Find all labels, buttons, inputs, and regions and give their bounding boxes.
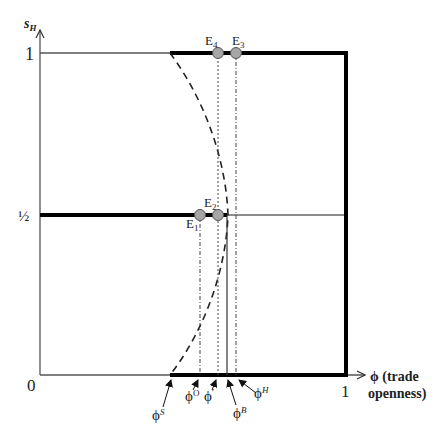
y-tick-1: 1 (25, 44, 34, 64)
equilibrium-point-E1 (195, 210, 206, 221)
y-tick-half: ½ (18, 208, 29, 224)
label-phi-prime: ϕ′ (204, 387, 214, 404)
phi-S-arrow (163, 380, 171, 407)
label-E2: E2 (204, 195, 216, 212)
bifurcation-diagram: E1 E2 E4 E3 sH 1 ½ 0 1 ϕ (trade openness… (0, 0, 441, 431)
y-axis-label: sH (23, 16, 37, 33)
x-axis-label-line2: openness) (368, 386, 427, 402)
x-tick-1: 1 (341, 382, 350, 401)
label-E3: E3 (232, 33, 245, 50)
x-axis-label-line1: ϕ (trade (370, 369, 419, 385)
label-phi-H: ϕH (254, 385, 269, 401)
origin-label: 0 (27, 376, 36, 395)
label-phi-S: ϕS (152, 407, 165, 423)
label-E4: E4 (205, 33, 218, 50)
label-phi-O: ϕO (185, 388, 200, 404)
phi-B-arrow (228, 380, 236, 405)
label-phi-B: ϕB (233, 405, 247, 421)
